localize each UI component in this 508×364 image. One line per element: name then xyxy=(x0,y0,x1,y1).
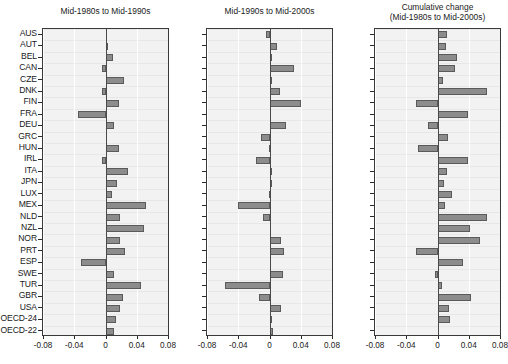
y-tick xyxy=(370,57,374,58)
y-tick xyxy=(202,228,206,229)
y-tick xyxy=(202,330,206,331)
category-label-irl: IRL xyxy=(0,153,40,164)
y-tick xyxy=(38,307,42,308)
x-tick xyxy=(438,336,439,339)
bar-nor xyxy=(438,237,480,244)
category-label-deu: DEU xyxy=(0,119,40,130)
category-label-hun: HUN xyxy=(0,142,40,153)
y-tick xyxy=(370,136,374,137)
y-tick xyxy=(370,45,374,46)
gridline xyxy=(301,29,302,335)
y-tick xyxy=(38,193,42,194)
y-tick xyxy=(38,182,42,183)
y-tick xyxy=(370,319,374,320)
y-tick xyxy=(38,205,42,206)
y-tick xyxy=(38,79,42,80)
bar-nld xyxy=(438,214,487,221)
y-tick xyxy=(202,182,206,183)
y-tick xyxy=(370,307,374,308)
y-tick xyxy=(38,45,42,46)
plot-area-3 xyxy=(374,28,501,336)
panel-title-1: Mid-1980s to Mid-1990s xyxy=(42,6,169,16)
panel-title-line1: Mid-1980s to Mid-1990s xyxy=(61,6,151,16)
bar-ita xyxy=(106,168,129,175)
bar-aus xyxy=(438,31,447,38)
bar-dnk xyxy=(438,88,487,95)
category-label-jpn: JPN xyxy=(0,176,40,187)
bar-tur xyxy=(225,282,270,289)
zero-line xyxy=(106,29,107,335)
y-tick xyxy=(370,68,374,69)
y-tick xyxy=(370,171,374,172)
panel-2: Mid-1990s to Mid-2000s-0.08-0.0400.040.0… xyxy=(206,0,333,364)
y-tick xyxy=(38,285,42,286)
bar-nor xyxy=(270,237,282,244)
x-tick-label: 0 xyxy=(267,341,272,351)
bar-prt xyxy=(106,248,126,255)
y-tick xyxy=(202,91,206,92)
y-tick xyxy=(202,34,206,35)
bar-fra xyxy=(78,111,105,118)
category-label-nzl: NZL xyxy=(0,222,40,233)
gridline xyxy=(207,29,208,335)
y-tick xyxy=(202,273,206,274)
y-tick xyxy=(202,79,206,80)
y-tick xyxy=(38,330,42,331)
y-tick xyxy=(370,114,374,115)
y-tick xyxy=(370,193,374,194)
y-tick xyxy=(202,250,206,251)
y-tick xyxy=(202,68,206,69)
gridline xyxy=(43,29,44,335)
category-label-tur: TUR xyxy=(0,279,40,290)
x-tick xyxy=(332,336,333,339)
category-label-fin: FIN xyxy=(0,96,40,107)
bar-usa xyxy=(438,305,450,312)
y-tick xyxy=(202,148,206,149)
y-tick xyxy=(38,228,42,229)
y-tick xyxy=(202,159,206,160)
x-tick xyxy=(500,336,501,339)
y-tick xyxy=(38,171,42,172)
x-tick xyxy=(137,336,138,339)
category-label-mex: MEX xyxy=(0,199,40,210)
bar-deu xyxy=(428,122,437,129)
bar-oecd-24 xyxy=(106,316,117,323)
bar-lux xyxy=(438,191,452,198)
y-tick xyxy=(202,136,206,137)
y-tick xyxy=(38,159,42,160)
y-tick xyxy=(370,216,374,217)
x-tick xyxy=(469,336,470,339)
y-tick xyxy=(202,296,206,297)
x-tick xyxy=(207,336,208,339)
bar-nzl xyxy=(106,225,144,232)
y-tick xyxy=(38,319,42,320)
y-tick xyxy=(38,239,42,240)
bar-fin xyxy=(416,100,438,107)
category-label-nld: NLD xyxy=(0,211,40,222)
bar-deu xyxy=(106,122,115,129)
y-tick xyxy=(202,193,206,194)
y-tick xyxy=(370,205,374,206)
panel-title-line1: Cumulative change xyxy=(402,2,474,12)
panel-title-3: Cumulative change(Mid-1980s to Mid-2000s… xyxy=(374,2,501,22)
category-label-fra: FRA xyxy=(0,108,40,119)
x-tick-label: 0 xyxy=(435,341,440,351)
x-tick-label: -0.08 xyxy=(34,341,53,351)
bar-bel xyxy=(438,54,458,61)
bar-jpn xyxy=(106,180,118,187)
bar-mex xyxy=(106,202,147,209)
gridline xyxy=(469,29,470,335)
bar-bel xyxy=(106,54,114,61)
category-label-nor: NOR xyxy=(0,233,40,244)
y-tick xyxy=(202,262,206,263)
y-tick xyxy=(370,239,374,240)
y-tick xyxy=(202,307,206,308)
gridline xyxy=(74,29,75,335)
bar-nzl xyxy=(438,225,470,232)
y-tick xyxy=(370,148,374,149)
x-tick-label: 0.04 xyxy=(461,341,477,351)
bar-nld xyxy=(106,214,121,221)
y-tick xyxy=(370,296,374,297)
y-tick xyxy=(370,273,374,274)
y-tick xyxy=(38,136,42,137)
